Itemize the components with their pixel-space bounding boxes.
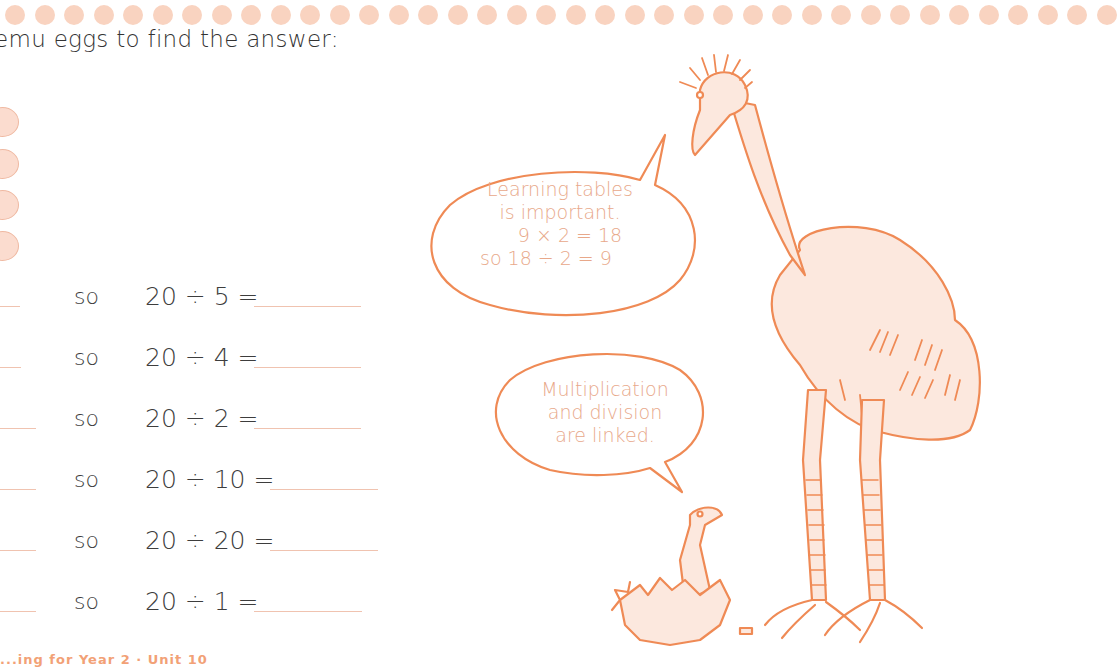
multiplication-answer-blank[interactable] (0, 306, 20, 307)
decorative-dot (300, 5, 320, 25)
bubble-line: is important. (470, 201, 650, 224)
decorative-dot (920, 5, 940, 25)
decorative-dot (625, 5, 645, 25)
connector-word: so (74, 406, 99, 431)
decorative-dot (330, 5, 350, 25)
equation-row: so 20 ÷ 20 = (0, 519, 400, 559)
bubble-line: so 18 ÷ 2 = 9 (470, 247, 650, 270)
decorative-dot (241, 5, 261, 25)
bubble-line: are linked. (515, 424, 695, 447)
division-answer-blank[interactable] (254, 428, 361, 429)
decorative-dot (861, 5, 881, 25)
decorative-dot (566, 5, 586, 25)
decorative-dot (654, 5, 674, 25)
division-answer-blank[interactable] (270, 550, 378, 551)
equation-row: so 20 ÷ 10 = (0, 458, 400, 498)
connector-word: so (74, 528, 99, 553)
division-equation: 20 ÷ 1 = (145, 587, 258, 616)
emu-egg-icon (0, 190, 19, 220)
emu-egg-icon (0, 231, 19, 261)
decorative-dot (448, 5, 468, 25)
decorative-dot (35, 5, 55, 25)
equation-row: so 20 ÷ 4 = (0, 336, 400, 376)
decorative-dot (802, 5, 822, 25)
emu-foot-right (825, 600, 922, 642)
decorative-dot (595, 5, 615, 25)
decorative-dot (890, 5, 910, 25)
division-equation: 20 ÷ 20 = (145, 526, 274, 555)
multiplication-answer-blank[interactable] (0, 489, 36, 490)
division-answer-blank[interactable] (254, 611, 362, 612)
multiplication-answer-blank[interactable] (0, 611, 36, 612)
instruction-text: emu eggs to find the answer: (0, 26, 339, 52)
speech-bubble-adult-text: Learning tables is important. 9 × 2 = 18… (470, 178, 650, 270)
decorative-dot (1038, 5, 1058, 25)
decorative-dot (182, 5, 202, 25)
multiplication-answer-blank[interactable] (0, 428, 36, 429)
decorative-dot (477, 5, 497, 25)
equation-row: so 20 ÷ 1 = (0, 580, 400, 620)
emu-egg-icon (0, 149, 19, 179)
bubble-line: and division (515, 401, 695, 424)
decorative-dot (94, 5, 114, 25)
decorative-dot (64, 5, 84, 25)
decorative-dot (713, 5, 733, 25)
decorative-dot (1067, 5, 1087, 25)
division-equation: 20 ÷ 2 = (145, 404, 258, 433)
division-equation: 20 ÷ 10 = (145, 465, 274, 494)
division-answer-blank[interactable] (270, 489, 378, 490)
division-equation: 20 ÷ 4 = (145, 343, 258, 372)
emu-egg-icon (0, 107, 19, 137)
decorative-dot (1097, 5, 1117, 25)
emu-foot-left (765, 600, 860, 638)
decorative-dot (418, 5, 438, 25)
connector-word: so (74, 284, 99, 309)
multiplication-answer-blank[interactable] (0, 550, 36, 551)
connector-word: so (74, 345, 99, 370)
division-answer-blank[interactable] (254, 367, 361, 368)
multiplication-answer-blank[interactable] (0, 367, 21, 368)
equation-row: so 20 ÷ 2 = (0, 397, 400, 437)
emu-neck (730, 100, 805, 275)
bubble-line: 9 × 2 = 18 (470, 224, 650, 247)
bubble-line: Learning tables (470, 178, 650, 201)
page-footer: ...ing for Year 2 · Unit 10 (0, 652, 208, 667)
equation-row: so 20 ÷ 5 = (0, 275, 400, 315)
speech-bubble-chick-text: Multiplication and division are linked. (515, 378, 695, 447)
division-equation: 20 ÷ 5 = (145, 282, 258, 311)
decorative-dot (359, 5, 379, 25)
decorative-dot (536, 5, 556, 25)
decorative-dot (772, 5, 792, 25)
decorative-dot (5, 5, 25, 25)
decorative-dot (153, 5, 173, 25)
decorative-dot (271, 5, 291, 25)
connector-word: so (74, 589, 99, 614)
decorative-dot (831, 5, 851, 25)
decorative-dot (389, 5, 409, 25)
decorative-dot (1008, 5, 1028, 25)
decorative-dot (212, 5, 232, 25)
decorative-dot (979, 5, 999, 25)
decorative-dot (507, 5, 527, 25)
decorative-dot (743, 5, 763, 25)
division-answer-blank[interactable] (254, 306, 361, 307)
decorative-dot (123, 5, 143, 25)
connector-word: so (74, 467, 99, 492)
broken-egg-shell (620, 578, 730, 645)
decorative-dot (684, 5, 704, 25)
bubble-line: Multiplication (515, 378, 695, 401)
emu-illustration (410, 40, 1092, 661)
decorative-dot (949, 5, 969, 25)
